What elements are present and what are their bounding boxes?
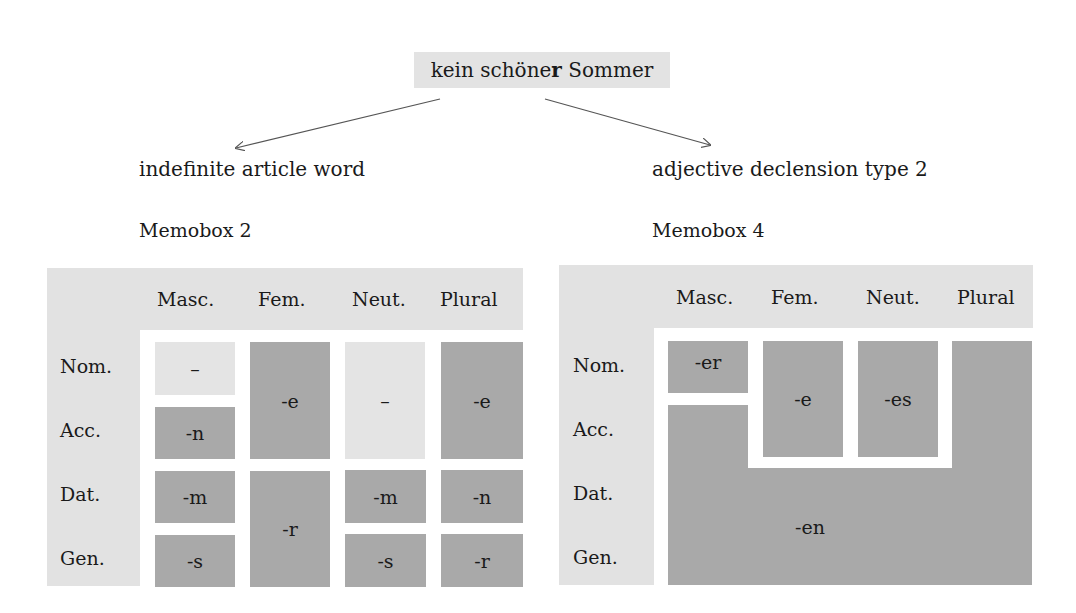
arrow-right-icon [545, 99, 710, 145]
cell-neut-gen: -s [345, 534, 426, 587]
memobox2-title: Memobox 2 [139, 219, 252, 241]
row-header-acc-4: Acc. [573, 418, 614, 440]
col-header-plural-4: Plural [957, 286, 1015, 308]
cell4-masc-nom: -er [668, 341, 748, 393]
row-header-dat-4: Dat. [573, 482, 613, 504]
row-header-nom-4: Nom. [573, 354, 625, 376]
row-header-acc: Acc. [60, 419, 101, 441]
col-header-neut: Neut. [352, 288, 406, 310]
col-header-fem: Fem. [258, 288, 305, 310]
col-header-plural: Plural [440, 288, 498, 310]
cell4-fem-nom-acc: -e [763, 341, 843, 457]
row-header-dat: Dat. [60, 483, 100, 505]
cell-neut-dat: -m [345, 470, 426, 523]
col-header-masc: Masc. [157, 288, 214, 310]
cell-masc-gen: -s [155, 535, 235, 587]
arrow-left-icon [236, 99, 440, 148]
right-branch-label: adjective declension type 2 [652, 157, 928, 181]
cell-fem-dat-gen: -r [250, 471, 330, 587]
cell-plural-dat: -n [441, 470, 523, 523]
col-header-fem-4: Fem. [771, 286, 818, 308]
row-header-gen-4: Gen. [573, 546, 618, 568]
row-header-nom: Nom. [60, 355, 112, 377]
memobox4-title: Memobox 4 [652, 219, 765, 241]
col-header-masc-4: Masc. [676, 286, 733, 308]
cell-masc-acc: -n [155, 407, 235, 459]
cell-plural-nom-acc: -e [441, 342, 523, 459]
cell4-en-label: -en [668, 468, 1032, 585]
cell-neut-nom-acc: – [345, 342, 425, 459]
cell-masc-nom: – [155, 342, 235, 395]
cell4-neut-nom-acc: -es [858, 341, 938, 457]
left-branch-label: indefinite article word [139, 157, 365, 181]
row-header-gen: Gen. [60, 547, 105, 569]
cell-plural-gen: -r [441, 534, 523, 587]
cell-masc-dat: -m [155, 471, 235, 523]
cell-fem-nom-acc: -e [250, 342, 330, 459]
col-header-neut-4: Neut. [866, 286, 920, 308]
